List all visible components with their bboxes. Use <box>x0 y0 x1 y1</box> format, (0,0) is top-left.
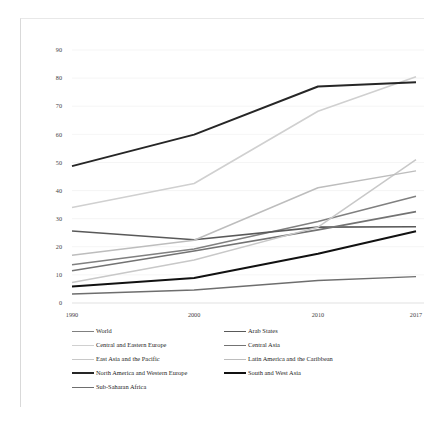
legend-item-label: Arab States <box>248 327 278 335</box>
y-axis-tick-label: 10 <box>56 271 62 278</box>
legend-item[interactable]: Arab States <box>224 327 278 335</box>
x-axis-tick-label: 2000 <box>188 311 200 318</box>
legend-row: WorldArab States <box>72 327 402 341</box>
legend-item[interactable]: Central Asia <box>224 341 280 349</box>
y-axis-tick-label: 80 <box>56 74 62 81</box>
legend-item-label: Central Asia <box>248 341 280 349</box>
x-axis-tick-label: 1990 <box>66 311 78 318</box>
legend-item[interactable]: Latin America and the Caribbean <box>224 355 333 363</box>
y-axis-tick-label: 40 <box>56 187 62 194</box>
legend-item[interactable]: Central and Eastern Europe <box>72 341 224 349</box>
legend-item[interactable]: World <box>72 327 224 335</box>
legend-color-swatch-icon <box>72 372 94 374</box>
legend-color-swatch-icon <box>224 359 246 360</box>
y-axis-tick-label: 50 <box>56 159 62 166</box>
legend-item[interactable]: North America and Western Europe <box>72 369 224 377</box>
x-axis-tick-labels: 1990200020102017 <box>66 311 422 318</box>
y-axis-tick-label: 30 <box>56 215 62 222</box>
legend-color-swatch-icon <box>72 359 94 360</box>
legend-color-swatch-icon <box>224 372 246 374</box>
legend-row: North America and Western EuropeSouth an… <box>72 369 402 383</box>
legend-item-label: Central and Eastern Europe <box>96 341 166 349</box>
y-axis-tick-label: 60 <box>56 131 62 138</box>
series-line-central-and-eastern-europe <box>72 77 416 208</box>
legend-row: Central and Eastern EuropeCentral Asia <box>72 341 402 355</box>
series-lines <box>72 77 416 294</box>
legend-row: East Asia and the PacificLatin America a… <box>72 355 402 369</box>
legend-item-label: North America and Western Europe <box>96 369 187 377</box>
chart-page: 0102030405060708090 1990200020102017 Wor… <box>0 0 443 423</box>
x-axis-tick-label: 2017 <box>410 311 422 318</box>
series-line-central-asia <box>72 212 416 271</box>
gridlines <box>72 50 424 303</box>
legend-item-label: World <box>96 327 112 335</box>
legend-color-swatch-icon <box>72 331 94 332</box>
y-axis-tick-labels: 0102030405060708090 <box>56 46 62 306</box>
legend-item-label: Sub-Saharan Africa <box>96 383 146 391</box>
legend-color-swatch-icon <box>224 331 246 332</box>
y-axis-tick-label: 90 <box>56 46 62 53</box>
legend-item[interactable]: East Asia and the Pacific <box>72 355 224 363</box>
x-axis-tick-label: 2010 <box>312 311 324 318</box>
legend-item-label: East Asia and the Pacific <box>96 355 160 363</box>
legend-row: Sub-Saharan Africa <box>72 383 402 397</box>
legend-color-swatch-icon <box>72 387 94 388</box>
legend-item-label: South and West Asia <box>248 369 301 377</box>
series-line-world <box>72 196 416 265</box>
legend-color-swatch-icon <box>72 345 94 346</box>
legend-item-label: Latin America and the Caribbean <box>248 355 333 363</box>
y-axis-tick-label: 70 <box>56 102 62 109</box>
chart-legend: WorldArab StatesCentral and Eastern Euro… <box>72 327 402 397</box>
legend-color-swatch-icon <box>224 345 246 346</box>
y-axis-tick-label: 20 <box>56 243 62 250</box>
y-axis-tick-label: 0 <box>59 299 62 306</box>
legend-item[interactable]: South and West Asia <box>224 369 301 377</box>
series-line-sub-saharan-africa <box>72 277 416 294</box>
legend-item[interactable]: Sub-Saharan Africa <box>72 383 146 391</box>
